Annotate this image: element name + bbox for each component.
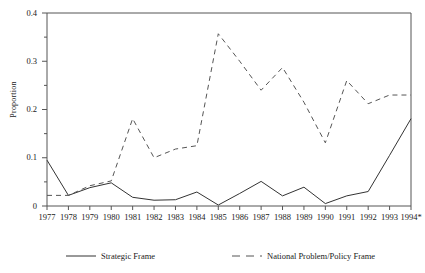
legend-line-solid-icon (66, 253, 96, 259)
plot-area (0, 0, 425, 273)
legend-label-national-problem-policy-frame: National Problem/Policy Frame (267, 251, 375, 261)
legend-entry-national-problem-policy-frame: National Problem/Policy Frame (232, 250, 375, 261)
chart-legend: Strategic Frame National Problem/Policy … (0, 248, 425, 268)
legend-line-dashed-icon (232, 253, 262, 259)
series-line-strategic-frame (47, 119, 411, 205)
series-line-national-problem-policy-frame (47, 34, 411, 196)
chart-container: Proportion 00.10.20.30.4 197719781979198… (0, 0, 425, 273)
axis-frame (47, 13, 411, 206)
legend-label-strategic-frame: Strategic Frame (101, 251, 155, 261)
legend-entry-strategic-frame: Strategic Frame (66, 250, 155, 261)
